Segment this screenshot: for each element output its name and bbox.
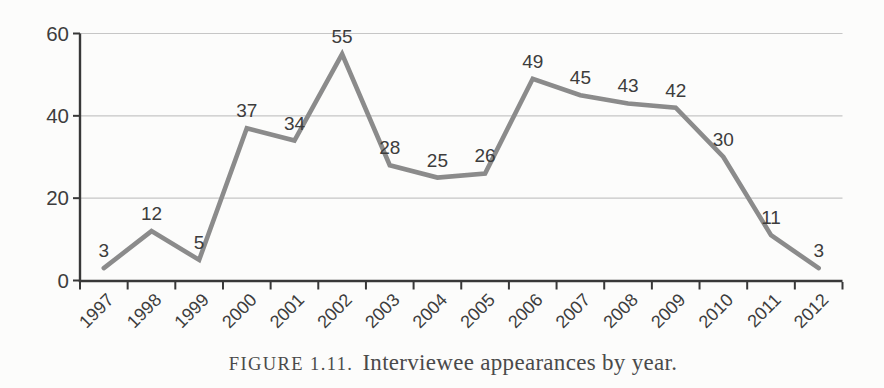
value-label: 28 [379,137,400,158]
value-label: 34 [284,113,306,134]
value-label: 5 [194,232,205,253]
value-label: 3 [813,240,824,261]
x-axis-label: 2004 [409,290,451,332]
x-axis-label: 2001 [266,290,308,332]
x-axis-label: 2010 [695,290,737,332]
value-label: 43 [617,75,638,96]
value-label: 26 [475,145,496,166]
x-axis-label: 2000 [218,290,260,332]
x-axis-label: 2007 [552,290,594,332]
figure-caption-text: Interviewee appearances by year. [362,350,677,375]
value-label: 11 [761,207,781,228]
y-axis-label: 40 [46,104,69,127]
value-label: 55 [332,26,353,47]
value-label: 49 [522,51,543,72]
y-axis-label: 20 [46,186,69,209]
value-label: 37 [236,100,257,121]
figure-caption: FIGURE 1.11.Interviewee appearances by y… [0,350,884,376]
x-axis-label: 2006 [504,290,546,332]
value-label: 30 [713,129,734,150]
value-label: 3 [99,240,110,261]
figure-number-label: FIGURE 1.11. [229,354,354,374]
x-axis-label: 2009 [647,290,689,332]
line-chart: 0204060199719981999200020012002200320042… [0,0,884,348]
x-axis-label: 2011 [743,290,785,332]
x-axis-label: 1997 [75,290,117,332]
scanned-book-figure: 0204060199719981999200020012002200320042… [0,0,884,388]
x-axis-label: 2003 [361,290,403,332]
value-label: 42 [665,80,686,101]
x-axis-label: 2012 [790,290,832,332]
value-label: 12 [141,203,162,224]
value-label: 25 [427,150,448,171]
value-label: 45 [570,67,591,88]
x-axis-label: 1998 [123,290,165,332]
x-axis-label: 2002 [313,290,355,332]
x-axis-label: 1999 [171,290,213,332]
x-axis-label: 2008 [599,290,641,332]
data-line [104,54,819,268]
y-axis-label: 0 [58,269,69,292]
y-axis-label: 60 [46,22,69,45]
x-axis-label: 2005 [456,290,498,332]
